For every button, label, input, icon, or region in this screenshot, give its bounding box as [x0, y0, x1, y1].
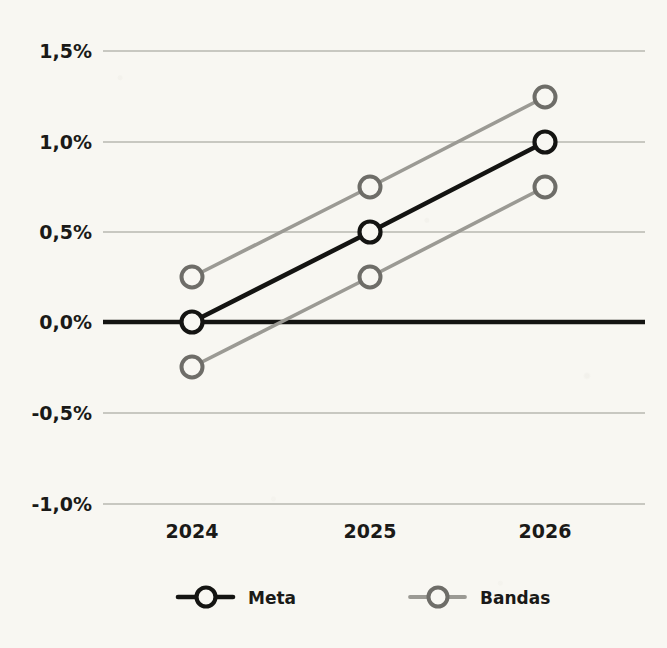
- data-point-marker: [182, 357, 203, 378]
- legend-label-meta: Meta: [248, 588, 296, 608]
- data-point-marker: [535, 177, 556, 198]
- data-point-marker: [535, 87, 556, 108]
- markers-banda-superior: [182, 87, 556, 288]
- y-axis-tick-labels: 1,5% 1,0% 0,5% 0,0% -0,5% -1,0%: [31, 40, 92, 515]
- data-point-marker: [182, 312, 203, 333]
- data-point-marker: [360, 177, 381, 198]
- legend-marker-icon: [429, 588, 448, 607]
- x-axis-tick-labels: 2024 2025 2026: [166, 520, 572, 542]
- line-chart-figure: 1,5% 1,0% 0,5% 0,0% -0,5% -1,0%: [0, 0, 667, 648]
- data-point-marker: [360, 222, 381, 243]
- data-point-marker: [360, 267, 381, 288]
- x-tick-label-2024: 2024: [166, 520, 219, 542]
- legend-item-bandas[interactable]: Bandas: [410, 588, 550, 609]
- y-tick-label-1.0: 1,0%: [39, 131, 92, 153]
- chart-canvas: 1,5% 1,0% 0,5% 0,0% -0,5% -1,0%: [0, 0, 667, 648]
- data-point-marker: [182, 267, 203, 288]
- legend-label-bandas: Bandas: [480, 588, 550, 608]
- data-point-marker: [535, 132, 556, 153]
- chart-legend: Meta Bandas: [178, 588, 550, 609]
- legend-item-meta[interactable]: Meta: [178, 588, 296, 609]
- y-tick-label-0.0: 0,0%: [39, 311, 92, 333]
- x-tick-label-2026: 2026: [519, 520, 572, 542]
- y-tick-label-0.5: 0,5%: [39, 221, 92, 243]
- y-tick-label-minus-0.5: -0,5%: [31, 402, 92, 424]
- y-tick-label-1.5: 1,5%: [39, 40, 92, 62]
- y-tick-label-minus-1.0: -1,0%: [31, 493, 92, 515]
- legend-marker-icon: [197, 588, 216, 607]
- x-tick-label-2025: 2025: [344, 520, 397, 542]
- markers-banda-inferior: [182, 177, 556, 378]
